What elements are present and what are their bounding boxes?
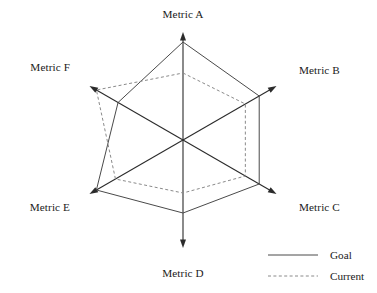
axis-label-metric-d: Metric D	[162, 267, 204, 279]
legend-label-goal: Goal	[330, 249, 352, 261]
axis-label-metric-c: Metric C	[299, 201, 340, 213]
axis-label-metric-e: Metric E	[30, 201, 70, 213]
axis-label-metric-f: Metric F	[30, 61, 70, 73]
axis-label-metric-b: Metric B	[299, 64, 340, 76]
legend-label-current: Current	[330, 270, 365, 282]
radar-chart-canvas: Metric AMetric BMetric CMetric DMetric E…	[0, 0, 377, 293]
chart-background	[0, 0, 377, 293]
axis-label-metric-a: Metric A	[163, 8, 204, 20]
radar-chart-figure: Metric AMetric BMetric CMetric DMetric E…	[0, 0, 377, 293]
